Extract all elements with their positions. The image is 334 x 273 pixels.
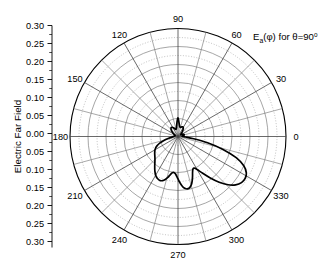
angle-label-240: 240 — [112, 235, 127, 245]
angle-label-180: 180 — [53, 132, 68, 142]
angle-label-0: 0 — [293, 132, 298, 142]
r-label-bot-1: 0.05 — [26, 147, 44, 157]
radial-axis-title: Electric Far Field — [12, 100, 23, 174]
r-label-center: 0.00 — [26, 129, 44, 139]
r-label-bot-2: 0.10 — [26, 165, 44, 175]
annot-argument: (φ) — [263, 31, 276, 42]
r-label-top-0: 0.30 — [26, 21, 44, 31]
annot-degree: o — [314, 31, 318, 38]
polar-grid — [70, 29, 286, 245]
r-label-top-3: 0.15 — [26, 75, 44, 85]
r-label-top-4: 0.10 — [26, 93, 44, 103]
angle-label-210: 210 — [67, 191, 82, 201]
polar-chart-svg: 0.30 0.25 0.20 0.15 0.10 0.05 0.00 0.05 … — [0, 0, 334, 273]
r-label-bot-4: 0.20 — [26, 201, 44, 211]
annot-middle: for — [276, 31, 293, 42]
polar-plot-figure: 0.30 0.25 0.20 0.15 0.10 0.05 0.00 0.05 … — [0, 0, 334, 273]
angle-label-150: 150 — [67, 74, 82, 84]
r-label-top-2: 0.20 — [26, 57, 44, 67]
angle-label-120: 120 — [112, 30, 127, 40]
angle-label-270: 270 — [170, 250, 185, 260]
r-label-bot-5: 0.25 — [26, 219, 44, 229]
r-label-bot-3: 0.15 — [26, 183, 44, 193]
annot-theta: θ=90 — [292, 31, 314, 42]
r-label-top-5: 0.05 — [26, 111, 44, 121]
angle-label-90: 90 — [173, 14, 183, 24]
svg-text:Ea(φ) for θ=90o: Ea(φ) for θ=90o — [253, 31, 318, 44]
angle-label-300: 300 — [229, 235, 244, 245]
angle-label-30: 30 — [276, 74, 286, 84]
plot-annotation: Ea(φ) for θ=90o — [253, 31, 318, 44]
r-label-bot-6: 0.30 — [26, 237, 44, 247]
angle-label-330: 330 — [273, 191, 288, 201]
angle-label-60: 60 — [231, 30, 241, 40]
r-label-top-1: 0.25 — [26, 39, 44, 49]
